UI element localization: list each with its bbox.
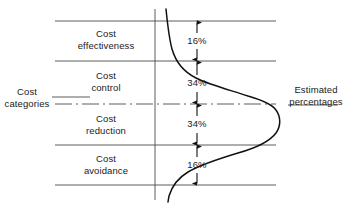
- band-label-cost-avoidance: Cost avoidance: [62, 153, 150, 176]
- percentage-label-cost-avoidance: 16%: [183, 159, 211, 170]
- percentage-label-cost-effectiveness: 16%: [183, 35, 211, 46]
- percentage-label-cost-control: 34%: [183, 77, 211, 88]
- axis-label-estimated-percentages: Estimated percentages: [283, 84, 349, 107]
- cost-categories-distribution-figure: Cost categories Estimated percentages Co…: [0, 0, 350, 208]
- axis-label-cost-categories: Cost categories: [2, 86, 52, 109]
- percentage-label-cost-reduction: 34%: [183, 118, 211, 129]
- band-label-cost-control: Cost control: [62, 70, 150, 93]
- band-label-cost-effectiveness: Cost effectiveness: [62, 28, 150, 51]
- band-label-cost-reduction: Cost reduction: [62, 113, 150, 136]
